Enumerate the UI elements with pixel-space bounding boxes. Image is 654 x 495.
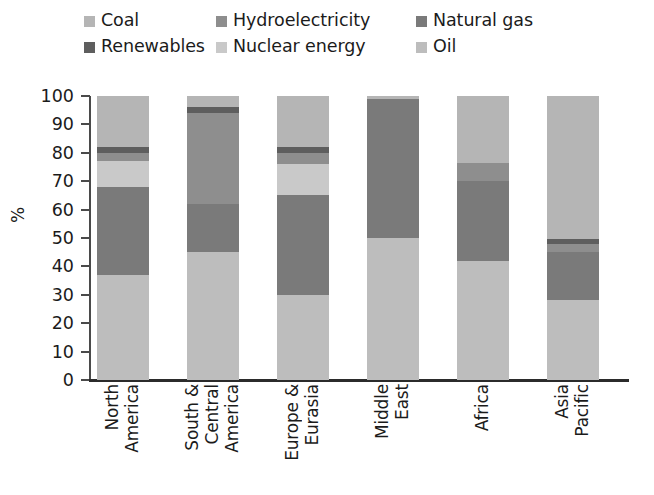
x-tick-label-line: Pacific <box>573 384 592 437</box>
x-tick-label: AsiaPacific <box>553 384 593 492</box>
bar-segment-natural-gas[interactable] <box>457 181 509 261</box>
y-tick-label: 0 <box>63 371 74 389</box>
bar-segment-oil[interactable] <box>547 300 599 380</box>
bar-segment-renewables[interactable] <box>547 239 599 243</box>
y-tick-label: 90 <box>52 115 74 133</box>
bars-container <box>89 96 629 380</box>
bar-segment-natural-gas[interactable] <box>547 252 599 300</box>
bar-segment-oil[interactable] <box>367 238 419 380</box>
x-tick-label: Europe &Eurasia <box>283 384 323 492</box>
bar-segment-oil[interactable] <box>457 261 509 380</box>
stacked-bar-chart: % 0102030405060708090100 NorthAmericaSou… <box>0 0 654 495</box>
x-tick-label-line: North <box>103 384 122 431</box>
x-tick-label: NorthAmerica <box>103 384 143 492</box>
y-tick-label: 60 <box>52 201 74 219</box>
x-tick-label: MiddleEast <box>373 384 413 492</box>
x-tick-label: South &CentralAmerica <box>183 384 243 492</box>
x-tick-label-line: Eurasia <box>303 384 322 446</box>
x-tick-label-line: South & <box>183 384 202 451</box>
bar-segment-natural-gas[interactable] <box>277 195 329 294</box>
bar-segment-hydroelectricity[interactable] <box>277 153 329 164</box>
bar-segment-hydroelectricity[interactable] <box>187 113 239 204</box>
bar-segment-coal[interactable] <box>547 96 599 239</box>
y-tick-label: 40 <box>52 257 74 275</box>
y-tick-label: 20 <box>52 314 74 332</box>
bar-segment-renewables[interactable] <box>277 147 329 153</box>
x-tick-label-line: Africa <box>473 384 492 431</box>
stacked-bar[interactable] <box>547 96 599 380</box>
y-tick-label: 100 <box>41 87 74 105</box>
x-tick-label-line: Central <box>203 384 222 445</box>
bar-segment-coal[interactable] <box>277 96 329 147</box>
bar-group <box>367 96 419 380</box>
x-tick-label-line: East <box>393 384 412 420</box>
bar-segment-coal[interactable] <box>367 96 419 99</box>
bar-segment-oil[interactable] <box>187 252 239 380</box>
bar-segment-hydroelectricity[interactable] <box>457 163 509 181</box>
stacked-bar[interactable] <box>367 96 419 380</box>
bar-segment-natural-gas[interactable] <box>367 99 419 238</box>
bar-group <box>187 96 239 380</box>
bar-segment-hydroelectricity[interactable] <box>547 244 599 253</box>
bar-segment-renewables[interactable] <box>187 107 239 113</box>
y-tick-label: 70 <box>52 172 74 190</box>
bar-segment-renewables[interactable] <box>97 147 149 153</box>
bar-group <box>277 96 329 380</box>
bar-segment-natural-gas[interactable] <box>97 187 149 275</box>
x-tick-label-line: America <box>123 384 142 453</box>
y-tick-label: 50 <box>52 229 74 247</box>
stacked-bar[interactable] <box>187 96 239 380</box>
bar-segment-coal[interactable] <box>97 96 149 147</box>
y-axis-ticks: 0102030405060708090100 <box>22 88 90 388</box>
x-tick-label: Africa <box>473 384 493 492</box>
bar-group <box>97 96 149 380</box>
bar-segment-oil[interactable] <box>277 295 329 380</box>
bar-group <box>457 96 509 380</box>
bar-segment-natural-gas[interactable] <box>187 204 239 252</box>
bar-segment-nuclear-energy[interactable] <box>277 164 329 195</box>
stacked-bar[interactable] <box>457 96 509 380</box>
bar-segment-coal[interactable] <box>457 96 509 163</box>
y-tick-label: 80 <box>52 144 74 162</box>
stacked-bar[interactable] <box>277 96 329 380</box>
x-tick-label-line: Europe & <box>283 384 302 461</box>
x-tick-label-line: Middle <box>373 384 392 439</box>
bar-segment-coal[interactable] <box>187 96 239 107</box>
stacked-bar[interactable] <box>97 96 149 380</box>
bar-segment-oil[interactable] <box>97 275 149 380</box>
y-tick-label: 30 <box>52 286 74 304</box>
bar-segment-hydroelectricity[interactable] <box>97 153 149 162</box>
bar-group <box>547 96 599 380</box>
bar-segment-nuclear-energy[interactable] <box>97 161 149 187</box>
x-axis-labels: NorthAmericaSouth &CentralAmericaEurope … <box>89 384 629 494</box>
y-tick-label: 10 <box>52 343 74 361</box>
x-tick-label-line: America <box>223 384 242 453</box>
x-tick-label-line: Asia <box>553 384 572 419</box>
